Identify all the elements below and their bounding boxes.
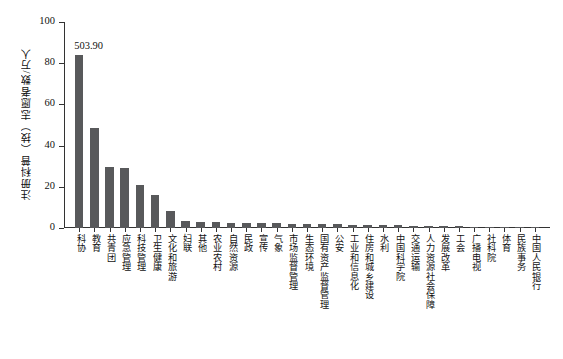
x-axis-tick	[155, 228, 156, 232]
x-axis-tick-label: 社科院	[483, 234, 496, 262]
bar	[288, 224, 297, 228]
x-axis-tick-label: 水利	[376, 234, 389, 253]
x-axis-tick	[413, 228, 414, 232]
x-axis-tick-label: 教育	[88, 234, 101, 253]
y-axis-title: 注册科普（技）志愿者数/万人	[18, 18, 36, 230]
x-axis-tick	[140, 228, 141, 232]
bar	[212, 222, 221, 228]
x-axis-tick	[246, 228, 247, 232]
x-axis-tick	[353, 228, 354, 232]
x-axis-tick-label: 民族事务	[513, 234, 526, 272]
bar	[485, 227, 494, 228]
bar	[348, 225, 357, 228]
bar	[257, 223, 266, 228]
x-axis-tick-label: 人力资源社会保障	[422, 234, 435, 309]
x-axis-tick	[110, 228, 111, 232]
x-axis-tick	[216, 228, 217, 232]
x-axis-tick-label: 自然资源	[225, 234, 238, 272]
x-axis-tick-label: 共青团	[103, 234, 116, 262]
bar	[181, 221, 190, 228]
bar	[105, 167, 114, 228]
y-axis-tick-label: 100	[39, 15, 55, 26]
x-axis-tick	[383, 228, 384, 232]
x-axis-tick	[201, 228, 202, 232]
bar	[166, 211, 175, 228]
x-axis-tick-label: 应急管理	[118, 234, 131, 272]
y-axis-tick: 0	[59, 228, 64, 229]
bar-chart-figure: 注册科普（技）志愿者数/万人 020406080100 503.90 科协教育共…	[0, 0, 563, 359]
x-axis-tick	[170, 228, 171, 232]
x-axis-tick-label: 文化和旅游	[164, 234, 177, 281]
x-axis-tick	[277, 228, 278, 232]
y-axis-tick-label: 40	[45, 139, 56, 150]
x-axis-tick	[398, 228, 399, 232]
x-axis-tick-label: 广播电视	[468, 234, 481, 272]
x-axis-tick	[231, 228, 232, 232]
y-axis-tick-label: 20	[45, 180, 56, 191]
x-axis-tick-label: 住房和城乡建设	[361, 234, 374, 300]
y-axis-tick: 100	[59, 22, 64, 23]
bar	[75, 55, 84, 228]
x-axis-tick	[79, 228, 80, 232]
x-axis-tick-label: 宣传	[255, 234, 268, 253]
y-axis-tick: 20	[59, 187, 64, 188]
x-axis-tick	[504, 228, 505, 232]
x-axis-tick-label: 科技管理	[133, 234, 146, 272]
bar	[439, 226, 448, 228]
x-axis-tick-label: 发展改革	[437, 234, 450, 272]
x-axis-tick-label: 妇联	[179, 234, 192, 253]
y-axis-tick: 60	[59, 104, 64, 105]
x-axis-tick	[459, 228, 460, 232]
bar	[120, 168, 129, 228]
x-axis-tick	[337, 228, 338, 232]
y-axis-tick: 40	[59, 146, 64, 147]
y-axis-tick-label: 60	[45, 97, 56, 108]
x-axis-tick-label: 交通运输	[407, 234, 420, 272]
x-axis-tick	[444, 228, 445, 232]
x-axis-tick-label: 生态环境	[301, 234, 314, 272]
bar	[136, 185, 145, 228]
x-axis-tick-label: 国有资产监督管理	[316, 234, 329, 309]
x-axis-tick	[489, 228, 490, 232]
bar	[363, 225, 372, 228]
bar	[500, 227, 509, 228]
x-axis-tick-label: 工会	[452, 234, 465, 253]
x-axis-tick	[125, 228, 126, 232]
x-axis-tick-labels: 科协教育共青团应急管理科技管理卫生健康文化和旅游妇联其他农业农村自然资源民政宣传…	[64, 234, 550, 356]
y-axis-tick-label: 0	[50, 221, 55, 232]
x-axis-tick-label: 气象	[270, 234, 283, 253]
x-axis-tick-label: 市场监督管理	[285, 234, 298, 290]
y-axis-tick: 80	[59, 63, 64, 64]
x-axis-tick	[186, 228, 187, 232]
x-axis-tick-label: 农业农村	[209, 234, 222, 272]
x-axis-tick	[94, 228, 95, 232]
bar	[455, 226, 464, 228]
bar	[515, 227, 524, 228]
x-axis-tick	[474, 228, 475, 232]
bar	[272, 223, 281, 228]
x-axis-tick-label: 卫生健康	[149, 234, 162, 272]
x-axis-tick-label: 公安	[331, 234, 344, 253]
x-axis-tick-label: 工业和信息化	[346, 234, 359, 290]
x-axis-tick	[292, 228, 293, 232]
bar	[409, 226, 418, 228]
bar	[531, 227, 540, 228]
bar	[303, 224, 312, 228]
y-axis-line	[64, 22, 65, 228]
bar	[424, 226, 433, 228]
bar	[151, 195, 160, 228]
bar	[227, 223, 236, 228]
x-axis-tick	[429, 228, 430, 232]
bar	[196, 222, 205, 228]
y-axis-tick-label: 80	[45, 56, 56, 67]
bar	[242, 223, 251, 228]
x-axis-tick	[520, 228, 521, 232]
x-axis-tick	[261, 228, 262, 232]
bar	[394, 225, 403, 228]
x-axis-tick	[368, 228, 369, 232]
x-axis-tick	[322, 228, 323, 232]
x-axis-tick-label: 科协	[73, 234, 86, 253]
x-axis-tick	[535, 228, 536, 232]
x-axis-tick-label: 民政	[240, 234, 253, 253]
bar	[90, 128, 99, 228]
